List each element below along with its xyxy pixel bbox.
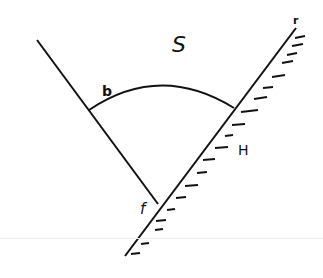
hatch-marks xyxy=(131,36,305,254)
diagram-svg xyxy=(0,0,323,278)
label-arc-b: b xyxy=(102,84,112,98)
surface-line xyxy=(125,28,296,256)
label-surface-h: H xyxy=(238,143,249,157)
label-region-s: S xyxy=(172,34,186,56)
label-end-r: r xyxy=(293,15,298,26)
label-vertex-f: f xyxy=(140,202,145,217)
left-line xyxy=(37,40,158,204)
diagram-canvas: S b H f r xyxy=(0,0,323,278)
faint-scan-line xyxy=(0,238,323,239)
